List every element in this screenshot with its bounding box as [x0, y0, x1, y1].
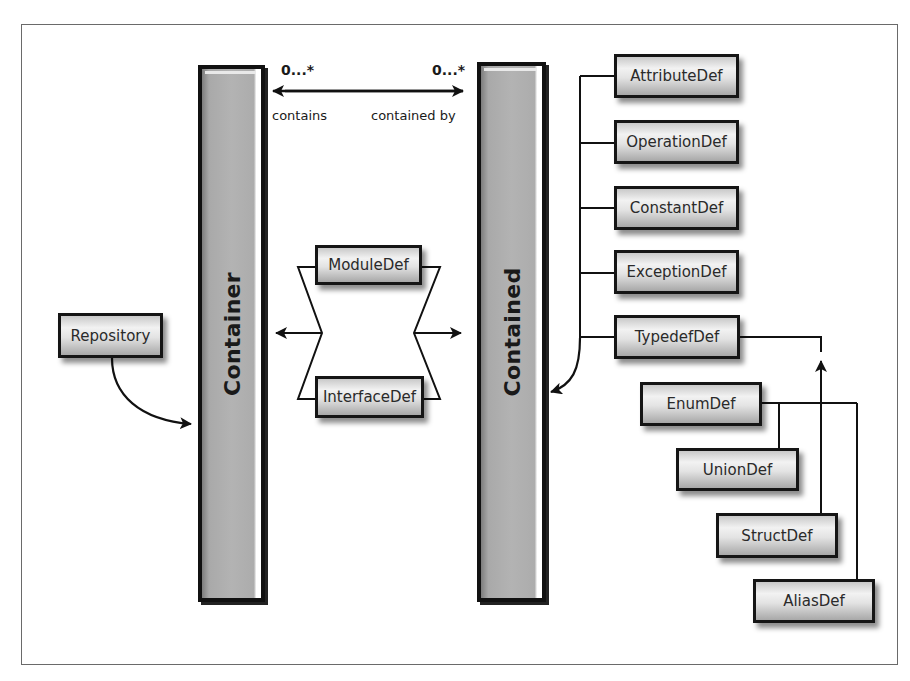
left-role-label: contains: [272, 108, 327, 123]
container-column-highlight: [205, 71, 256, 74]
node-repository[interactable]: Repository: [58, 313, 163, 358]
node-module-def[interactable]: ModuleDef: [315, 245, 422, 285]
node-typedef-def[interactable]: TypedefDef: [614, 315, 740, 359]
right-role-label: contained by: [371, 108, 456, 123]
node-union-def[interactable]: UnionDef: [676, 448, 799, 491]
container-column[interactable]: Container: [198, 65, 265, 602]
node-struct-def[interactable]: StructDef: [716, 513, 838, 558]
node-constant-def[interactable]: ConstantDef: [614, 186, 739, 230]
node-enum-def[interactable]: EnumDef: [640, 382, 762, 426]
container-label: Container: [219, 272, 244, 396]
node-attribute-def[interactable]: AttributeDef: [614, 54, 739, 98]
node-interface-def[interactable]: InterfaceDef: [315, 376, 424, 418]
node-operation-def[interactable]: OperationDef: [614, 120, 739, 164]
contained-column-highlight: [484, 68, 537, 71]
right-multiplicity: 0...*: [432, 62, 465, 78]
contained-column[interactable]: Contained: [477, 62, 546, 602]
contained-label: Contained: [499, 268, 524, 397]
left-multiplicity: 0...*: [281, 62, 314, 78]
node-exception-def[interactable]: ExceptionDef: [614, 250, 739, 294]
node-alias-def[interactable]: AliasDef: [753, 579, 875, 623]
